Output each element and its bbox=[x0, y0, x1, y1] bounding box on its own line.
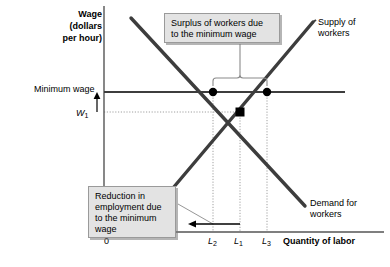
point-l3-minimum-wage bbox=[263, 88, 271, 96]
point-l2-minimum-wage bbox=[209, 88, 217, 96]
x-tick-label-l2: L2 bbox=[208, 236, 217, 247]
surplus-callout: Surplus of workers due to the minimum wa… bbox=[164, 13, 280, 43]
employment-reduction-arrow-head bbox=[188, 220, 196, 227]
point-market-equilibrium bbox=[236, 108, 245, 117]
wage-increase-arrow-head bbox=[94, 92, 101, 99]
supply-label-leader bbox=[313, 20, 316, 22]
x-tick-label-l3: L3 bbox=[262, 236, 271, 247]
reduction-callout: Reduction in employment due to the minim… bbox=[88, 186, 176, 238]
x-tick-l1-subscript: 1 bbox=[239, 240, 243, 247]
supply-curve bbox=[173, 22, 313, 188]
x-tick-label-l1: L1 bbox=[234, 236, 243, 247]
supply-curve-label: Supply of workers bbox=[318, 17, 356, 39]
x-tick-l3-subscript: 3 bbox=[267, 240, 271, 247]
x-axis-title: Quantity of labor bbox=[283, 236, 355, 247]
demand-curve-label: Demand for workers bbox=[310, 198, 357, 220]
minimum-wage-label: Minimum wage bbox=[34, 84, 95, 95]
w1-label-letter: W bbox=[76, 108, 85, 118]
minimum-wage-supply-demand-diagram: Wage (dollars per hour) Quantity of labo… bbox=[0, 0, 390, 267]
w1-label: W1 bbox=[76, 108, 88, 121]
w1-label-subscript: 1 bbox=[85, 112, 89, 119]
y-axis-title: Wage (dollars per hour) bbox=[18, 8, 102, 44]
demand-curve bbox=[131, 18, 305, 206]
x-tick-l2-subscript: 2 bbox=[213, 240, 217, 247]
